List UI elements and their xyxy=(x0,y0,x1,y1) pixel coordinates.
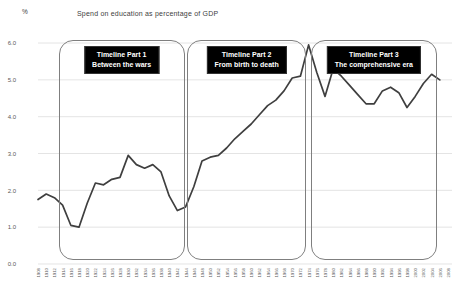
svg-text:1946: 1946 xyxy=(192,267,197,277)
svg-text:1962: 1962 xyxy=(257,267,262,277)
svg-text:2006: 2006 xyxy=(438,267,443,277)
timeline-box-part1: Timeline Part 1 Between the wars xyxy=(59,40,185,260)
svg-text:1998: 1998 xyxy=(405,267,410,277)
svg-text:1938: 1938 xyxy=(159,267,164,277)
svg-text:1988: 1988 xyxy=(364,267,369,277)
svg-text:1968: 1968 xyxy=(282,267,287,277)
timeline-part2-subtitle: From birth to death xyxy=(215,60,279,70)
svg-text:1992: 1992 xyxy=(380,267,385,277)
svg-text:1966: 1966 xyxy=(274,267,279,277)
svg-text:1912: 1912 xyxy=(52,267,57,277)
svg-text:1926: 1926 xyxy=(110,267,115,277)
svg-text:1964: 1964 xyxy=(266,267,271,277)
svg-text:1908: 1908 xyxy=(36,267,41,277)
svg-text:1916: 1916 xyxy=(69,267,74,277)
svg-text:1940: 1940 xyxy=(167,267,172,277)
svg-text:1952: 1952 xyxy=(216,267,221,277)
svg-text:1990: 1990 xyxy=(372,267,377,277)
svg-text:1920: 1920 xyxy=(85,267,90,277)
svg-text:1974: 1974 xyxy=(307,267,312,277)
timeline-box-part2: Timeline Part 2 From birth to death xyxy=(187,40,307,260)
chart-page: % Spend on education as percentage of GD… xyxy=(0,0,460,293)
svg-text:2008: 2008 xyxy=(446,267,451,277)
svg-text:1996: 1996 xyxy=(397,267,402,277)
svg-text:1928: 1928 xyxy=(118,267,123,277)
svg-text:6.0: 6.0 xyxy=(8,40,17,46)
svg-text:1922: 1922 xyxy=(93,267,98,277)
svg-text:1986: 1986 xyxy=(356,267,361,277)
svg-text:1972: 1972 xyxy=(298,267,303,277)
svg-text:1932: 1932 xyxy=(134,267,139,277)
svg-text:1934: 1934 xyxy=(143,267,148,277)
svg-text:3.0: 3.0 xyxy=(8,151,17,157)
timeline-part1-subtitle: Between the wars xyxy=(92,60,151,70)
svg-text:1942: 1942 xyxy=(175,267,180,277)
svg-text:2002: 2002 xyxy=(421,267,426,277)
svg-text:1978: 1978 xyxy=(323,267,328,277)
svg-text:1960: 1960 xyxy=(249,267,254,277)
svg-text:2004: 2004 xyxy=(430,267,435,277)
svg-text:1924: 1924 xyxy=(102,267,107,277)
svg-text:2.0: 2.0 xyxy=(8,188,17,194)
timeline-label-part1: Timeline Part 1 Between the wars xyxy=(84,46,159,74)
y-axis-tick-labels: 0.01.02.03.04.05.06.0 xyxy=(8,40,17,267)
x-axis-tick-labels: 1908191019121914191619181920192219241926… xyxy=(36,267,451,277)
svg-text:1914: 1914 xyxy=(61,267,66,277)
timeline-label-part2: Timeline Part 2 From birth to death xyxy=(207,46,287,74)
svg-text:1918: 1918 xyxy=(77,267,82,277)
svg-text:1954: 1954 xyxy=(225,267,230,277)
svg-text:1976: 1976 xyxy=(315,267,320,277)
svg-text:1910: 1910 xyxy=(44,267,49,277)
svg-text:1948: 1948 xyxy=(200,267,205,277)
svg-text:1984: 1984 xyxy=(348,267,353,277)
svg-text:1980: 1980 xyxy=(331,267,336,277)
svg-text:1994: 1994 xyxy=(389,267,394,277)
svg-text:1.0: 1.0 xyxy=(8,224,17,230)
svg-text:0.0: 0.0 xyxy=(8,261,17,267)
svg-text:1936: 1936 xyxy=(151,267,156,277)
timeline-part1-title: Timeline Part 1 xyxy=(92,50,151,60)
svg-text:1956: 1956 xyxy=(233,267,238,277)
timeline-part3-subtitle: The comprehensive era xyxy=(335,60,413,70)
svg-text:1950: 1950 xyxy=(208,267,213,277)
timeline-label-part3: Timeline Part 3 The comprehensive era xyxy=(327,46,421,74)
svg-text:1970: 1970 xyxy=(290,267,295,277)
timeline-box-part3: Timeline Part 3 The comprehensive era xyxy=(311,40,437,260)
svg-text:1930: 1930 xyxy=(126,267,131,277)
svg-text:1944: 1944 xyxy=(184,267,189,277)
svg-text:5.0: 5.0 xyxy=(8,77,17,83)
svg-text:2000: 2000 xyxy=(413,267,418,277)
timeline-part3-title: Timeline Part 3 xyxy=(335,50,413,60)
svg-text:1982: 1982 xyxy=(339,267,344,277)
svg-text:1958: 1958 xyxy=(241,267,246,277)
svg-text:4.0: 4.0 xyxy=(8,114,17,120)
timeline-part2-title: Timeline Part 2 xyxy=(215,50,279,60)
